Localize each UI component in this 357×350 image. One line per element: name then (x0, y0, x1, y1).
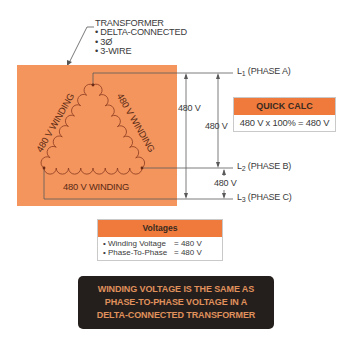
voltages-title: Voltages (98, 220, 222, 237)
voltage-l1-l3: 480 V (178, 103, 201, 113)
line-subscript: 1 (242, 70, 246, 77)
quick-calc-title: QUICK CALC (234, 98, 335, 115)
note-line: DELTA-CONNECTED TRANSFORMER (78, 309, 274, 322)
phase-label: (PHASE B) (248, 161, 291, 171)
voltages-box: Voltages • Winding Voltage = 480 V • Pha… (97, 219, 223, 261)
line-label-l3: L3 (PHASE C) (237, 192, 292, 203)
line-label-l1: L1 (PHASE A) (237, 66, 291, 77)
line-subscript: 2 (242, 165, 246, 172)
line-subscript: 3 (242, 196, 246, 203)
note-line: WINDING VOLTAGE IS THE SAME AS (78, 283, 274, 296)
phase-label: (PHASE C) (248, 192, 292, 202)
line-label-l2: L2 (PHASE B) (237, 161, 291, 172)
quick-calc-formula: 480 V x 100% = 480 V (234, 115, 335, 131)
callout-leader-arrow (67, 27, 94, 66)
voltages-row-label: • Phase-To-Phase (103, 249, 174, 258)
voltages-row-value: = 480 V (174, 249, 202, 258)
voltage-l1-l2: 480 V (205, 121, 228, 131)
voltages-row: • Phase-To-Phase = 480 V (103, 249, 222, 258)
phase-label: (PHASE A) (248, 66, 291, 76)
quick-calc-box: QUICK CALC 480 V x 100% = 480 V (233, 97, 336, 132)
voltage-l2-l3: 480 V (214, 178, 237, 188)
note-line: PHASE-TO-PHASE VOLTAGE IN A (78, 296, 274, 309)
summary-note: WINDING VOLTAGE IS THE SAME AS PHASE-TO-… (78, 276, 274, 329)
winding-label-bottom: 480 V WINDING (63, 181, 129, 192)
